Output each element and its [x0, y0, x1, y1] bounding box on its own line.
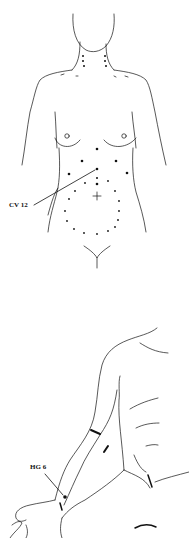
torso-figure — [22, 14, 166, 268]
neck-points — [82, 55, 107, 67]
hg6-leader-line — [45, 474, 63, 495]
acupoint-diagram — [0, 0, 189, 538]
navel-mark — [93, 192, 101, 200]
abdominal-points — [64, 148, 128, 235]
hg6-point — [63, 495, 67, 499]
hg6-label: HG 6 — [30, 463, 46, 471]
cv12-label: CV 12 — [9, 201, 28, 209]
cv12-leader-line — [34, 170, 95, 205]
arm-figure — [10, 328, 189, 538]
